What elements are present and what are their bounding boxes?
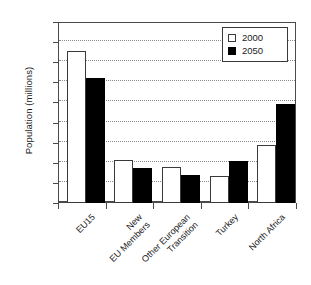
legend-item: 2000 (228, 31, 282, 44)
x-tick-mark-1 (106, 203, 107, 209)
bar (86, 78, 105, 203)
bar-group (162, 22, 200, 203)
bar (133, 168, 152, 203)
bar-group (67, 22, 105, 203)
legend-label: 2050 (242, 46, 263, 56)
x-tick-mark-0 (58, 203, 59, 209)
bar (276, 104, 295, 203)
bar-group (114, 22, 152, 203)
legend-label: 2000 (242, 33, 263, 43)
legend-swatch-2050 (228, 47, 236, 55)
population-bar-chart: Population (millions) 050100150200250300… (0, 0, 311, 285)
y-axis-title: Population (millions) (23, 31, 34, 191)
bar (229, 161, 248, 203)
x-tick-mark-2 (153, 203, 154, 209)
x-tick-mark-5 (296, 203, 297, 209)
bar (162, 167, 181, 203)
legend-item: 2050 (228, 44, 282, 57)
x-tick-mark-4 (248, 203, 249, 209)
legend-swatch-2000 (228, 34, 236, 42)
bar (257, 145, 276, 203)
bar (181, 175, 200, 203)
chart-legend: 20002050 (222, 27, 288, 62)
bar (210, 176, 229, 203)
bar (67, 51, 86, 203)
bar (114, 160, 133, 203)
x-tick-mark-3 (201, 203, 202, 209)
